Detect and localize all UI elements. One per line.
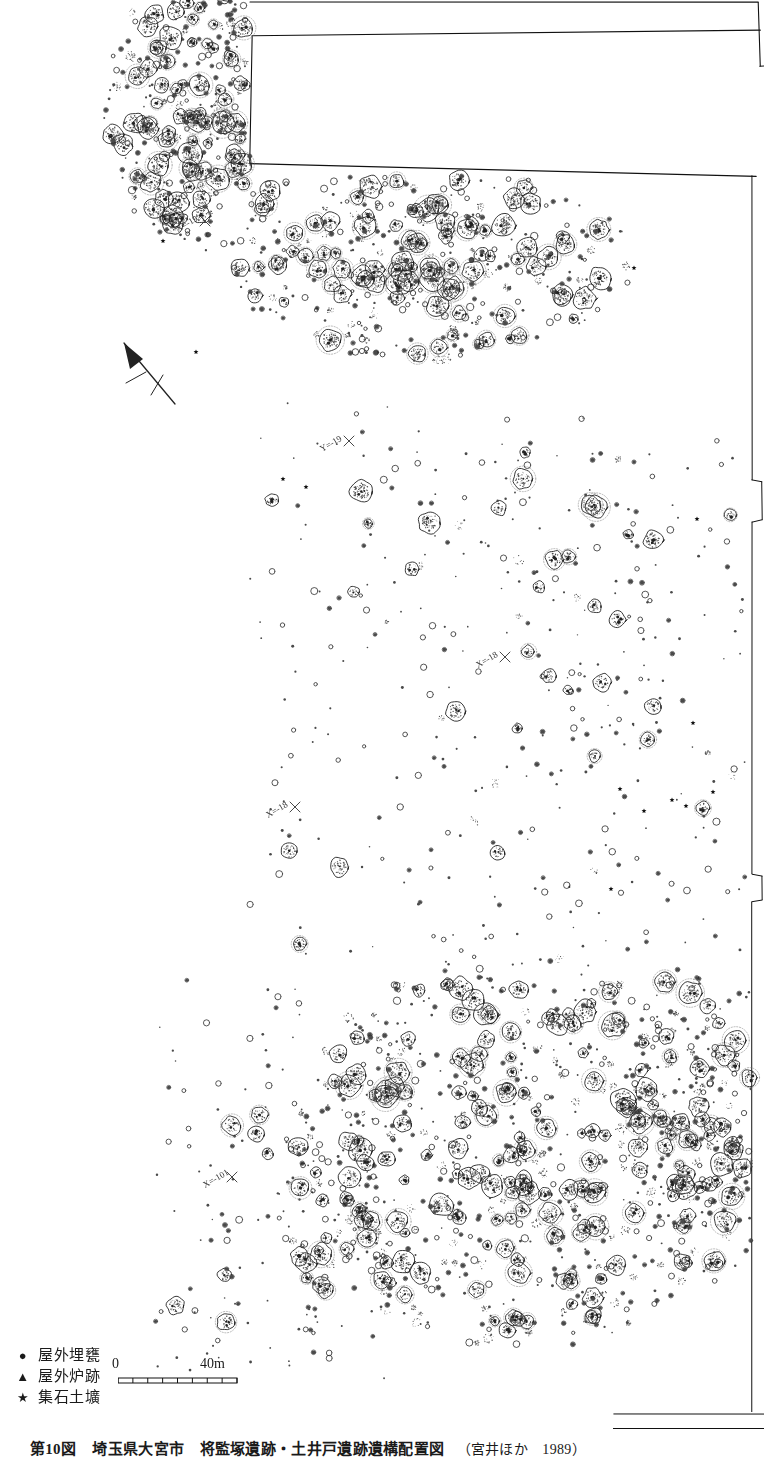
figure-source: （宮井ほか 1989） — [457, 1442, 586, 1457]
legend-item-label: 集石土壙 — [32, 1387, 100, 1408]
legend-item: ● 屋外埋甕 — [14, 1345, 100, 1366]
scale-bar-graphic — [118, 1375, 248, 1389]
legend-item: ★ 集石土壙 — [14, 1387, 100, 1408]
legend-item-label: 屋外埋甕 — [32, 1345, 100, 1366]
scale-max-label: 40m — [200, 1357, 225, 1371]
legend-item: ▲ 屋外炉跡 — [14, 1366, 100, 1387]
caption-rule-divider — [613, 1428, 764, 1429]
map-legend: ● 屋外埋甕 ▲ 屋外炉跡 ★ 集石土壙 — [14, 1345, 100, 1408]
filled-triangle-icon: ▲ — [14, 1366, 32, 1387]
figure-title: 埼玉県大宮市 将監塚遺跡・土井戸遺跡遺構配置図 — [92, 1441, 444, 1457]
scale-min-label: 0 — [112, 1357, 119, 1371]
site-plan-map — [0, 0, 764, 1420]
legend-item-label: 屋外炉跡 — [32, 1366, 100, 1387]
scale-bar: 0 40m — [112, 1357, 242, 1387]
filled-star-icon: ★ — [14, 1387, 32, 1408]
filled-circle-icon: ● — [14, 1345, 32, 1366]
figure-number: 第10図 — [30, 1441, 76, 1457]
archaeological-site-plan-figure: ● 屋外埋甕 ▲ 屋外炉跡 ★ 集石土壙 0 40m 第10図 埼玉県大宮市 将… — [0, 0, 764, 1461]
figure-caption: 第10図 埼玉県大宮市 将監塚遺跡・土井戸遺跡遺構配置図 （宮井ほか 1989） — [30, 1437, 750, 1458]
